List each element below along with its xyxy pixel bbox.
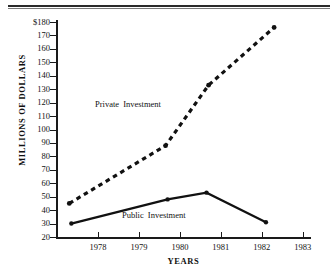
data-point — [67, 201, 72, 206]
plot-area: $180170160150140130120110100908070605040… — [0, 0, 334, 274]
y-axis-title: MILLIONS OF DOLLARS — [17, 40, 27, 180]
data-point — [206, 83, 211, 88]
data-point — [165, 197, 169, 201]
series-plot — [0, 0, 334, 274]
data-point — [264, 220, 268, 224]
chart-page: $180170160150140130120110100908070605040… — [0, 0, 334, 274]
data-point — [272, 25, 277, 30]
series-line-private-investment — [69, 27, 274, 203]
data-point — [163, 143, 168, 148]
annotation-private-investment: Private Investment — [95, 100, 161, 109]
x-axis-title: YEARS — [56, 256, 311, 266]
annotation-public-investment: Public Investment — [122, 211, 186, 220]
data-point — [204, 190, 208, 194]
data-point — [69, 221, 73, 225]
